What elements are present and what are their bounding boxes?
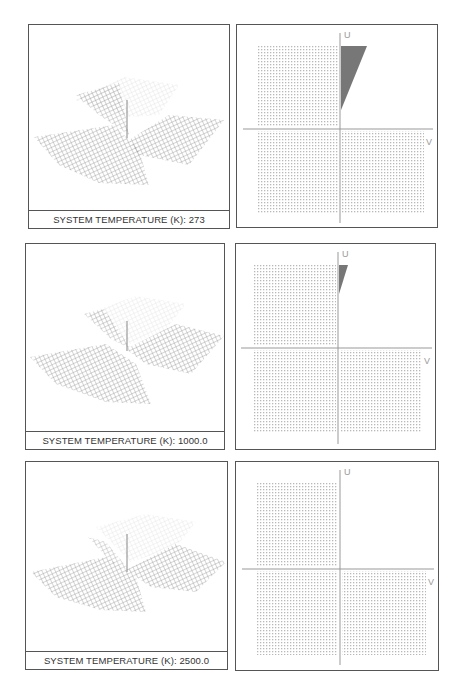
u-axis-label: U [344,30,351,40]
v-axis-label: V [426,137,432,147]
stable-region-wedge [339,265,348,294]
surface-panel-273: SYSTEM TEMPERATURE (K): 273 [28,24,230,229]
v-axis-label: V [424,356,430,366]
surface-plot-3d [29,25,229,212]
temperature-label: SYSTEM TEMPERATURE (K): 2500.0 [26,651,227,669]
surface-plot-3d [26,462,227,653]
stable-region-wedge [341,46,367,110]
v-axis-label: V [428,577,434,587]
uv-phase-plot [236,244,435,449]
surface-panel-1000: SYSTEM TEMPERATURE (K): 1000.0 [25,243,225,450]
surface-plot-3d [26,244,224,433]
u-axis-label: U [342,249,349,259]
temperature-label: SYSTEM TEMPERATURE (K): 1000.0 [26,431,224,449]
u-axis-label: U [344,467,351,477]
uv-phase-plot [237,25,437,227]
phase-diagram-273: U V [236,24,438,228]
temperature-label: SYSTEM TEMPERATURE (K): 273 [29,210,229,228]
phase-diagram-2500: U V [235,461,439,671]
surface-panel-2500: SYSTEM TEMPERATURE (K): 2500.0 [25,461,228,670]
uv-phase-plot [236,462,438,670]
phase-diagram-1000: U V [235,243,436,450]
